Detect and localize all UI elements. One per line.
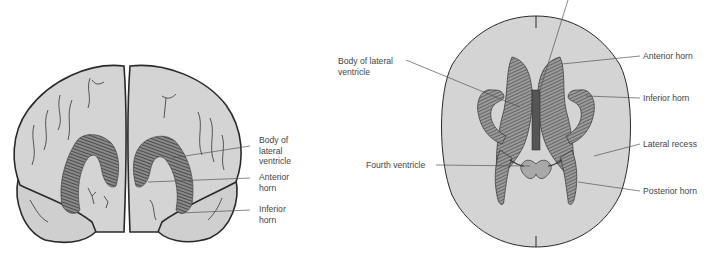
axial-label-fourth-ventricle: Fourth ventricle	[366, 160, 425, 171]
coronal-label-body-of-lateral-ventricle: Body of lateral ventricle	[259, 135, 291, 167]
coronal-label-anterior-horn: Anterior horn	[259, 172, 289, 193]
axial-label-anterior-horn: Anterior horn	[643, 51, 693, 62]
coronal-label-inferior-horn: Inferior horn	[259, 204, 286, 225]
coronal-brain	[14, 65, 241, 242]
third-ventricle	[532, 90, 540, 150]
axial-brain	[442, 16, 631, 247]
axial-label-inferior-horn: Inferior horn	[643, 93, 689, 104]
ventricles-diagram	[0, 0, 713, 262]
axial-label-body-of-lateral-ventricle: Body of lateral ventricle	[338, 56, 393, 77]
axial-label-posterior-horn: Posterior horn	[643, 186, 697, 197]
axial-label-lateral-recess: Lateral recess	[643, 139, 697, 150]
